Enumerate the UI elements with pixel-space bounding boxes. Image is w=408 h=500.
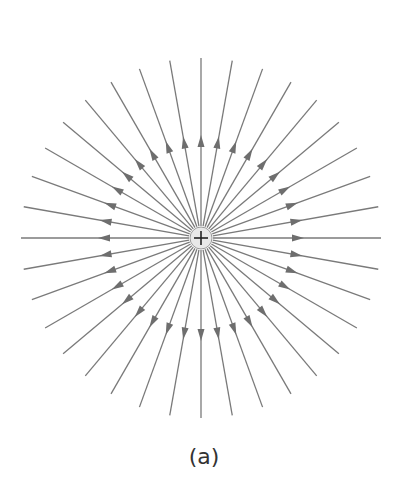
arrow-icon xyxy=(104,203,116,210)
arrow-icon xyxy=(229,322,236,334)
arrow-icon xyxy=(166,141,173,153)
electric-field-diagram xyxy=(0,0,408,500)
arrow-icon xyxy=(112,187,124,196)
arrow-icon xyxy=(166,322,173,334)
arrow-icon xyxy=(292,235,304,242)
arrow-icon xyxy=(112,280,124,289)
arrow-icon xyxy=(150,149,159,161)
figure-caption: (a) xyxy=(0,444,408,469)
arrow-icon xyxy=(243,315,252,327)
arrow-icon xyxy=(229,141,236,153)
arrow-icon xyxy=(278,280,290,289)
arrow-icon xyxy=(278,187,290,196)
arrow-icon xyxy=(285,203,297,210)
arrow-icon xyxy=(198,329,205,341)
arrow-icon xyxy=(104,266,116,273)
arrow-icon xyxy=(98,235,110,242)
arrow-icon xyxy=(150,315,159,327)
positive-charge xyxy=(190,227,212,249)
arrow-icon xyxy=(243,149,252,161)
arrow-icon xyxy=(198,135,205,147)
arrow-icon xyxy=(285,266,297,273)
